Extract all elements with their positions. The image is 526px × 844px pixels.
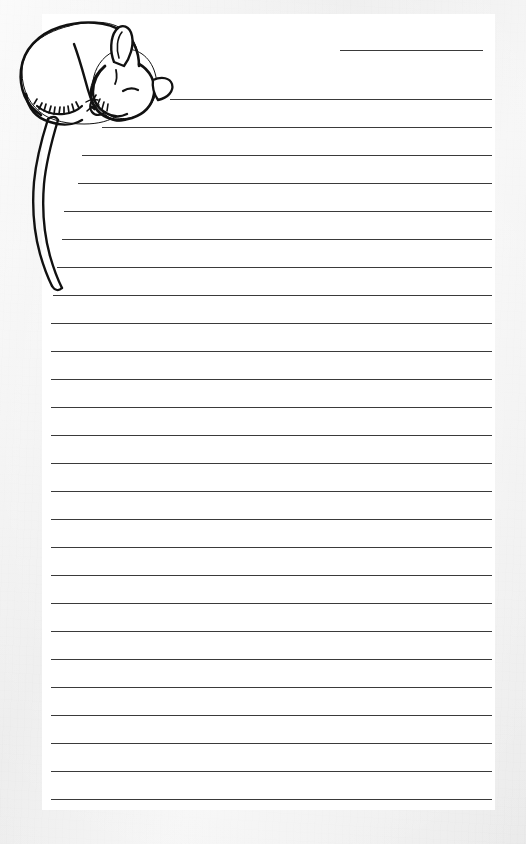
stationery-page bbox=[0, 0, 526, 844]
sleeping-mouse-illustration bbox=[6, 14, 216, 304]
mouse-far-ear bbox=[153, 78, 173, 100]
mouse-tail-inner bbox=[43, 120, 62, 288]
